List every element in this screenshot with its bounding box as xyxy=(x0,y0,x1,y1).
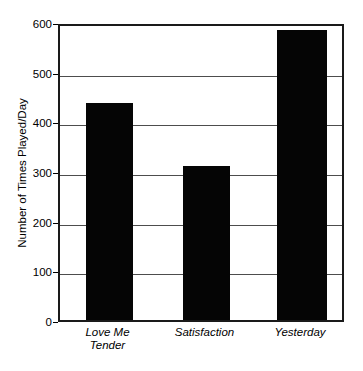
y-axis-tick-label: 0 xyxy=(6,315,52,329)
bar xyxy=(86,103,133,320)
bar xyxy=(183,166,230,320)
y-axis-tick-label: 100 xyxy=(6,265,52,279)
y-axis-tick-label: 500 xyxy=(6,67,52,81)
y-axis-tick-mark xyxy=(53,322,58,323)
x-axis-category-label: Satisfaction xyxy=(155,326,255,339)
plot-area xyxy=(58,24,344,322)
y-axis-tick-label: 600 xyxy=(6,17,52,31)
y-axis-tick-label: 200 xyxy=(6,216,52,230)
x-axis-category-label: Love Me Tender xyxy=(58,326,158,352)
x-axis-category-label: Yesterday xyxy=(250,326,350,339)
bar-chart-figure: Number of Times Played/Day 0100200300400… xyxy=(0,0,363,371)
y-axis-tick-label: 400 xyxy=(6,116,52,130)
bar xyxy=(277,30,327,320)
y-axis-tick-label: 300 xyxy=(6,166,52,180)
